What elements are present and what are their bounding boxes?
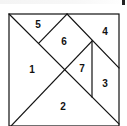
piece-label-1: 1 bbox=[29, 65, 35, 75]
piece-label-5: 5 bbox=[35, 20, 41, 30]
piece-label-6: 6 bbox=[61, 37, 67, 47]
piece-label-4: 4 bbox=[102, 27, 108, 37]
piece-label-2: 2 bbox=[60, 102, 66, 112]
anti-diagonal bbox=[11, 41, 92, 126]
piece-label-7: 7 bbox=[79, 64, 85, 74]
piece-label-3: 3 bbox=[102, 79, 108, 89]
